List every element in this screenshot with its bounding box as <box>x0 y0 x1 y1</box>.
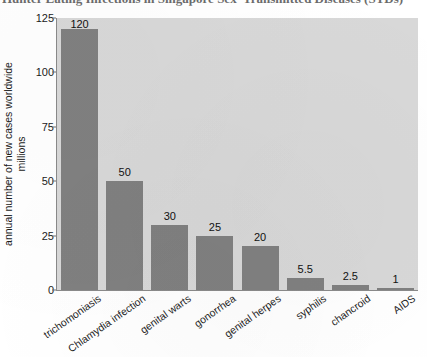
bar-value-label: 50 <box>119 166 131 178</box>
bar-value-label: 2.5 <box>343 270 358 282</box>
bar-value-label: 120 <box>70 18 88 30</box>
bar-value-label: 20 <box>254 231 266 243</box>
x-axis-category-label: AIDS <box>391 292 418 316</box>
bar <box>61 29 98 290</box>
page-header-strip: Hunter Lating Infections in Singapore Se… <box>0 0 427 11</box>
x-axis-category-label: chancroid <box>329 292 373 328</box>
bar <box>377 288 414 290</box>
page-header-fragment-left: Hunter Lating Infections in Singapore Se… <box>2 0 237 7</box>
x-axis-spine <box>56 290 418 291</box>
bar-value-label: 25 <box>209 221 221 233</box>
bar <box>332 285 369 290</box>
bar-value-label: 5.5 <box>298 263 313 275</box>
bar <box>196 236 233 290</box>
bar <box>242 246 279 290</box>
bar <box>287 278 324 290</box>
y-axis-tick-labels: 0255075100125 <box>28 18 54 290</box>
bar <box>151 225 188 290</box>
y-axis-title: annual number of new cases worldwide mil… <box>0 18 30 290</box>
bar-value-label: 30 <box>164 210 176 222</box>
bar-value-label: 1 <box>392 273 398 285</box>
bar <box>106 181 143 290</box>
page-header-fragment-right: Transmitted Diseases (STDs) <box>243 0 403 7</box>
y-axis-title-line1: annual number of new cases worldwide <box>2 62 15 246</box>
x-axis-category-label: syphilis <box>293 292 328 322</box>
y-axis-title-line2: millions <box>15 62 28 246</box>
x-axis-category-label: Chlamydia infection <box>65 292 147 354</box>
bar-chart-figure: Hunter Lating Infections in Singapore Se… <box>0 0 427 357</box>
plot-area: 120503025205.52.51 <box>57 18 418 290</box>
x-axis-category-labels: trichomoniasisChlamydia infectiongenital… <box>57 292 418 357</box>
